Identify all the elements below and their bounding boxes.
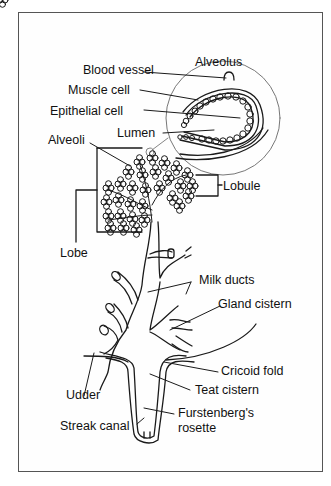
label-cricoid-fold: Cricoid fold <box>221 364 284 378</box>
label-streak-canal: Streak canal <box>60 419 129 433</box>
label-muscle-cell: Muscle cell <box>68 83 130 97</box>
mammary-gland-illustration <box>0 0 331 486</box>
alveolus-inset <box>146 61 280 175</box>
label-lobule: Lobule <box>223 179 261 193</box>
leader-lines <box>84 72 240 424</box>
label-furstenbergs-rosette-line2: rosette <box>178 421 216 435</box>
label-alveolus: Alveolus <box>195 55 242 69</box>
label-teat-cistern: Teat cistern <box>195 383 259 397</box>
label-lumen: Lumen <box>117 126 155 140</box>
lobule-bracket <box>196 175 218 196</box>
label-epithelial-cell: Epithelial cell <box>50 104 123 118</box>
label-udder: Udder <box>66 388 100 402</box>
label-gland-cistern: Gland cistern <box>218 297 292 311</box>
label-alveoli: Alveoli <box>48 133 85 147</box>
label-lobe: Lobe <box>60 246 88 260</box>
alveoli-cluster <box>0 0 198 237</box>
label-milk-ducts: Milk ducts <box>199 273 255 287</box>
label-blood-vessel: Blood vessel <box>83 63 154 77</box>
label-furstenbergs-rosette-line1: Furstenberg's <box>178 406 254 420</box>
